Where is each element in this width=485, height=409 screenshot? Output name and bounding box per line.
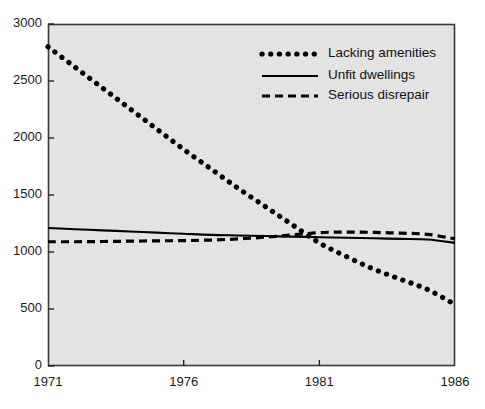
y-axis-tick-label: 0 bbox=[35, 357, 42, 372]
y-axis-tick-label: 1500 bbox=[13, 186, 42, 201]
y-axis-tick-label: 2500 bbox=[13, 72, 42, 87]
chart-canvas bbox=[0, 0, 485, 409]
legend-label-2: Serious disrepair bbox=[328, 87, 429, 102]
legend-label-0: Lacking amenities bbox=[328, 45, 436, 60]
x-axis-tick-label: 1976 bbox=[144, 374, 224, 389]
y-axis-tick-label: 1000 bbox=[13, 243, 42, 258]
x-axis-tick-label: 1986 bbox=[415, 374, 485, 389]
line-chart: 0500100015002000250030001971197619811986… bbox=[0, 0, 485, 409]
x-axis-tick-label: 1971 bbox=[8, 374, 88, 389]
y-axis-tick-label: 2000 bbox=[13, 129, 42, 144]
legend-label-1: Unfit dwellings bbox=[328, 67, 415, 82]
y-axis-tick-label: 3000 bbox=[13, 15, 42, 30]
x-axis-tick-label: 1981 bbox=[279, 374, 359, 389]
y-axis-tick-label: 500 bbox=[20, 300, 42, 315]
